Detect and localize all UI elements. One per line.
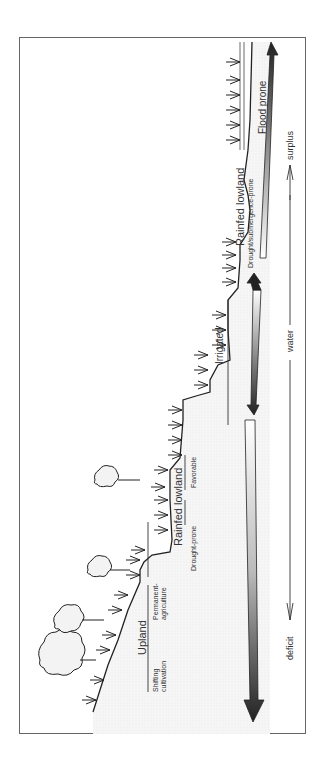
zone-label-rainfed-lowland-2: Rainfed lowland bbox=[234, 168, 246, 246]
terrain-profile bbox=[93, 42, 270, 734]
surplus-label: surplus bbox=[285, 130, 295, 160]
water-axis bbox=[287, 165, 293, 620]
subzone-shifting: Shifting bbox=[152, 669, 160, 692]
tree-icon bbox=[54, 605, 84, 633]
rice-ecosystem-diagram: Upland Shifting cultivation Permanent- a… bbox=[0, 0, 327, 757]
tree-icon bbox=[87, 556, 111, 577]
subzone-favorable: Favorable bbox=[190, 457, 197, 488]
subzone-drought-prone: Drought-prone bbox=[190, 526, 198, 571]
zone-label-rainfed-lowland-1: Rainfed lowland bbox=[172, 468, 184, 546]
subzone-cultivation: cultivation bbox=[160, 661, 167, 692]
subzone-agriculture: agriculture bbox=[160, 587, 168, 620]
subzone-drought-submergence: Drought/submergence-prone bbox=[247, 178, 255, 268]
water-label: water bbox=[285, 330, 295, 353]
tree-icon bbox=[39, 629, 85, 675]
tree-icon bbox=[94, 466, 118, 487]
subzone-permanent: Permanent- bbox=[152, 583, 159, 620]
zone-label-upland: Upland bbox=[136, 620, 148, 655]
deficit-label: deficit bbox=[285, 636, 295, 660]
zone-label-irrigated: Irrigated bbox=[214, 327, 225, 364]
